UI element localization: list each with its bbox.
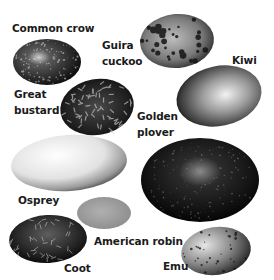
egg-texture-mark xyxy=(233,261,235,263)
egg-texture-mark xyxy=(59,72,60,73)
egg-texture-mark xyxy=(181,196,182,197)
egg-texture-mark xyxy=(71,94,76,95)
egg-texture-mark xyxy=(191,203,193,205)
egg-texture-mark xyxy=(216,147,217,148)
egg-texture-mark xyxy=(164,47,167,50)
egg-texture-mark xyxy=(15,57,17,59)
egg-texture-mark xyxy=(190,148,191,149)
egg-texture-mark xyxy=(50,65,51,66)
egg-texture-mark xyxy=(158,188,159,189)
egg-texture-mark xyxy=(237,158,239,160)
egg-texture-mark xyxy=(209,218,210,219)
egg-texture-mark xyxy=(151,190,153,192)
egg-texture-mark xyxy=(154,42,159,47)
egg-texture-mark xyxy=(38,80,40,82)
egg-texture-mark xyxy=(191,143,192,144)
egg-texture-mark xyxy=(184,207,185,208)
egg-texture-mark xyxy=(163,192,164,193)
egg-texture-mark xyxy=(62,78,63,79)
egg-texture-mark xyxy=(233,154,235,156)
egg-texture-mark xyxy=(177,26,179,28)
egg-texture-mark xyxy=(42,79,44,81)
egg-texture-mark xyxy=(216,188,217,189)
egg-texture-mark xyxy=(190,248,193,251)
egg-texture-mark xyxy=(220,254,221,255)
egg-texture-mark xyxy=(237,169,239,171)
egg-texture-mark xyxy=(190,213,191,214)
egg-texture-mark xyxy=(57,78,58,79)
egg-texture-mark xyxy=(54,63,55,64)
egg-texture-mark xyxy=(62,52,64,54)
egg-texture-mark xyxy=(177,166,178,167)
egg-texture-mark xyxy=(29,59,31,61)
egg-texture-mark xyxy=(187,206,189,208)
egg-texture-mark xyxy=(197,168,198,169)
egg-coot xyxy=(8,213,89,265)
egg-texture-mark xyxy=(48,62,50,64)
egg-texture-mark xyxy=(201,154,203,156)
egg-texture-mark xyxy=(209,150,210,151)
egg-texture-mark xyxy=(37,65,38,66)
egg-texture-mark xyxy=(156,159,157,160)
egg-texture-mark xyxy=(46,49,48,51)
egg-texture-mark xyxy=(45,58,46,59)
egg-texture-mark xyxy=(46,63,48,65)
egg-texture-mark xyxy=(232,149,233,150)
egg-texture-mark xyxy=(64,77,66,79)
egg-texture-mark xyxy=(172,205,174,207)
egg-texture-mark xyxy=(200,189,201,190)
label-common-crow: Common crow xyxy=(12,22,94,35)
egg-texture-mark xyxy=(235,167,236,168)
egg-texture-mark xyxy=(32,61,33,62)
egg-texture-mark xyxy=(35,43,36,44)
egg-texture-mark xyxy=(75,67,77,69)
egg-texture-mark xyxy=(146,39,149,42)
egg-texture-mark xyxy=(204,184,206,186)
egg-texture-mark xyxy=(77,66,78,67)
egg-texture-mark xyxy=(231,157,232,158)
egg-texture-mark xyxy=(28,67,30,69)
egg-texture-mark xyxy=(225,190,226,191)
egg-texture-mark xyxy=(196,50,199,53)
egg-texture-mark xyxy=(25,53,26,54)
egg-texture-mark xyxy=(230,258,232,260)
egg-texture-mark xyxy=(170,173,171,174)
egg-texture-mark xyxy=(245,177,246,178)
egg-texture-mark xyxy=(20,58,22,60)
egg-texture-mark xyxy=(204,208,205,209)
egg-texture-mark xyxy=(158,162,159,163)
egg-texture-mark xyxy=(219,155,221,157)
egg-texture-mark xyxy=(245,257,247,259)
egg-texture-mark xyxy=(55,43,56,44)
egg-texture-mark xyxy=(63,74,65,76)
egg-texture-mark xyxy=(28,72,29,73)
egg-texture-mark xyxy=(26,63,27,64)
egg-texture-mark xyxy=(205,159,206,160)
egg-texture-mark xyxy=(44,44,46,46)
egg-texture-mark xyxy=(168,58,171,61)
egg-texture-mark xyxy=(50,68,51,69)
egg-texture-mark xyxy=(36,50,37,51)
egg-texture-mark xyxy=(201,149,202,150)
egg-texture-mark xyxy=(69,46,70,47)
egg-texture-mark xyxy=(57,61,58,62)
egg-texture-mark xyxy=(230,248,232,250)
egg-texture-mark xyxy=(185,180,186,181)
egg-texture-mark xyxy=(177,202,178,203)
egg-texture-mark xyxy=(222,147,223,148)
egg-texture-mark xyxy=(197,206,198,207)
egg-texture-mark xyxy=(37,42,38,43)
egg-texture-mark xyxy=(201,264,203,266)
egg-texture-mark xyxy=(203,47,209,53)
label-great-bustard-line2: bustard xyxy=(14,104,59,117)
egg-texture-mark xyxy=(224,194,225,195)
egg-texture-mark xyxy=(153,166,154,167)
egg-texture-mark xyxy=(67,58,68,59)
egg-texture-mark xyxy=(180,149,181,150)
egg-texture-mark xyxy=(176,188,177,189)
egg-texture-mark xyxy=(190,199,191,200)
egg-texture-mark xyxy=(204,271,207,274)
egg-texture-mark xyxy=(211,154,212,155)
egg-texture-mark xyxy=(151,192,152,193)
egg-texture-mark xyxy=(212,211,213,212)
